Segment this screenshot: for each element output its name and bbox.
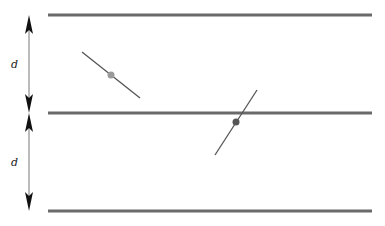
spacing-arrow-lower <box>25 113 33 211</box>
spacing-label-upper: d <box>11 58 18 71</box>
spacing-label-lower: d <box>11 156 18 169</box>
needle-2 <box>215 90 257 155</box>
needle-center-dot <box>108 72 115 79</box>
buffon-needle-diagram: d d <box>0 0 385 226</box>
parallel-lines <box>48 15 372 211</box>
needle-center-dot <box>233 119 240 126</box>
spacing-arrow-upper <box>25 15 33 113</box>
needle-1 <box>82 52 140 98</box>
needles <box>82 52 257 155</box>
